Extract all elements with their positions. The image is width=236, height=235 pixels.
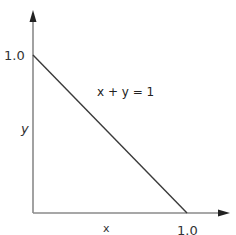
line-x-plus-y-equals-1 [33, 55, 187, 213]
y-axis-arrow-icon [30, 10, 37, 22]
x-tick-label: 1.0 [177, 223, 198, 235]
y-tick-label: 1.0 [4, 48, 25, 63]
line-label: x + y = 1 [97, 85, 154, 99]
chart: 1.0 1.0 y x x + y = 1 [0, 0, 236, 235]
x-axis-label: x [103, 222, 110, 235]
y-axis-label: y [20, 121, 29, 136]
x-axis-arrow-icon [218, 210, 230, 217]
